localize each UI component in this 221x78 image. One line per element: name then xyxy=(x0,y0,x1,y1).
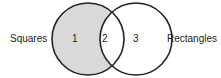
squares-label: Squares xyxy=(10,33,47,44)
region-2-label: 2 xyxy=(102,33,108,44)
venn-diagram: Squares 1 2 3 Rectangles xyxy=(0,0,221,78)
rectangles-label: Rectangles xyxy=(167,33,217,44)
region-1-label: 1 xyxy=(72,33,78,44)
region-3-label: 3 xyxy=(133,33,139,44)
